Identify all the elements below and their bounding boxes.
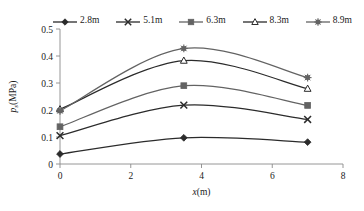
marker-star [56, 107, 64, 115]
y-tick-label: 0.3 [41, 79, 53, 89]
y-tick-label: 0.5 [41, 25, 53, 35]
marker-star [304, 74, 312, 82]
y-tick-label: 0 [48, 160, 53, 170]
x-tick-label: 0 [58, 171, 63, 181]
svg-text:ps(MPa): ps(MPa) [8, 81, 20, 114]
axis-layer [56, 29, 343, 168]
series-2.8m [57, 134, 311, 157]
x-tick-label: 6 [270, 171, 275, 181]
marker-diamond [180, 134, 187, 141]
marker-diamond [304, 139, 311, 146]
chart-plot-area: 0246800.10.20.30.40.5x(m)ps(MPa) [0, 0, 364, 211]
x-axis-title: x(m) [192, 187, 211, 198]
series-layer [56, 45, 311, 158]
marker-diamond [57, 151, 64, 158]
marker-star [180, 45, 188, 53]
marker-square [305, 103, 311, 109]
series-5.1m [57, 102, 311, 139]
series-line [60, 105, 308, 136]
marker-square [57, 124, 63, 130]
y-tick-label: 0.2 [41, 106, 53, 116]
y-tick-label: 0.1 [41, 133, 53, 143]
x-tick-label: 4 [199, 171, 204, 181]
y-axis-title: ps(MPa) [8, 81, 20, 114]
x-tick-label: 8 [341, 171, 346, 181]
y-tick-label: 0.4 [41, 52, 53, 62]
marker-square [181, 83, 187, 89]
chart-container: 2.8m5.1m6.3m8.3m8.9m 0246800.10.20.30.40… [0, 0, 364, 211]
x-tick-label: 2 [128, 171, 133, 181]
